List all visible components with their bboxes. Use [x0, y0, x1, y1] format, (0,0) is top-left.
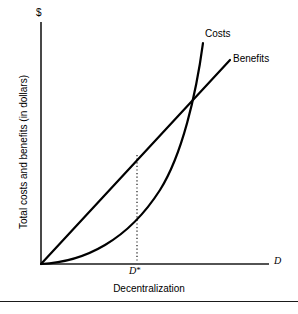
optimum-point-star: * — [136, 265, 141, 275]
benefits-series-label: Benefits — [233, 54, 269, 64]
costs-series-curve — [41, 43, 203, 264]
bottom-divider-rule — [0, 301, 298, 302]
x-axis-variable-label: D — [274, 256, 281, 266]
y-axis-title-wrapper: Total costs and benefits (in dollars) — [16, 52, 32, 252]
costs-series-label: Costs — [205, 29, 231, 39]
figure-container: $ Costs Benefits D D* Decentralization T… — [0, 0, 298, 314]
dollar-axis-label: $ — [36, 8, 42, 18]
x-axis-title: Decentralization — [0, 284, 298, 294]
optimum-point-label: D* — [129, 266, 141, 276]
chart-plot-area — [0, 0, 298, 314]
benefits-series-line — [41, 60, 230, 264]
y-axis-title: Total costs and benefits (in dollars) — [19, 75, 29, 229]
